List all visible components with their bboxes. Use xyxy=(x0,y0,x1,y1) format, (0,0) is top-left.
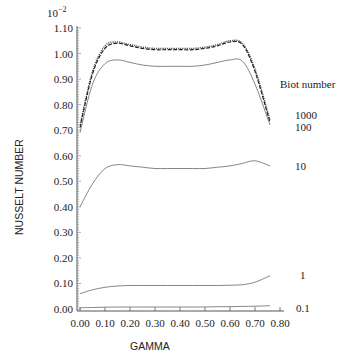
x-tick-label: 0.30 xyxy=(145,317,165,329)
curve-biot-1000 xyxy=(80,40,270,125)
x-tick-label: 0.00 xyxy=(70,317,90,329)
y-tick-label: 0.00 xyxy=(54,303,74,315)
y-tick-label: 0.80 xyxy=(54,99,74,111)
y-tick-label: 0.10 xyxy=(54,277,74,289)
y-tick-label: 1.00 xyxy=(54,48,74,60)
curves xyxy=(80,40,270,308)
y-minor-ticks xyxy=(77,28,81,309)
y-tick-labels: 0.000.100.200.300.400.500.600.700.800.90… xyxy=(54,22,74,315)
series-label-100: 100 xyxy=(295,121,312,133)
x-tick-label: 0.60 xyxy=(220,317,240,329)
curve-biot-100 xyxy=(80,41,270,127)
x-tick-label: 0.70 xyxy=(245,317,265,329)
series-label-1000: 1000 xyxy=(295,109,318,121)
curve-biot-10-upper xyxy=(80,59,270,133)
x-ticks xyxy=(80,307,280,311)
x-tick-label: 0.20 xyxy=(120,317,140,329)
x-tick-label: 0.80 xyxy=(270,317,290,329)
legend-title: Biot number xyxy=(280,78,336,90)
y-tick-label: 0.50 xyxy=(54,175,74,187)
y-tick-label: 1.10 xyxy=(54,22,74,34)
series-label-10: 10 xyxy=(295,160,307,172)
x-tick-label: 0.50 xyxy=(195,317,215,329)
y-tick-label: 0.70 xyxy=(54,124,74,136)
curve-biot-1 xyxy=(80,276,270,294)
y-axis-title: NUSSELT NUMBER xyxy=(13,139,25,235)
y-tick-label: 0.40 xyxy=(54,201,74,213)
series-label-0-1: 0.1 xyxy=(296,302,310,314)
y-tick-label: 0.60 xyxy=(54,150,74,162)
nusselt-vs-gamma-chart: 10−2 NUSSELT NUMBER GAMMA 0.000.100.200.… xyxy=(0,0,348,358)
y-multiplier-label: 10−2 xyxy=(47,5,67,19)
x-tick-labels: 0.000.100.200.300.400.500.600.700.80 xyxy=(70,317,290,329)
x-tick-label: 0.40 xyxy=(170,317,190,329)
x-axis-title: GAMMA xyxy=(130,340,170,352)
x-tick-label: 0.10 xyxy=(95,317,115,329)
y-tick-label: 0.30 xyxy=(54,226,74,238)
series-label-1: 1 xyxy=(300,269,306,281)
curve-biot-0-1 xyxy=(80,306,270,308)
y-tick-label: 0.20 xyxy=(54,252,74,264)
curve-biot-10 xyxy=(80,161,270,207)
y-tick-label: 0.90 xyxy=(54,73,74,85)
